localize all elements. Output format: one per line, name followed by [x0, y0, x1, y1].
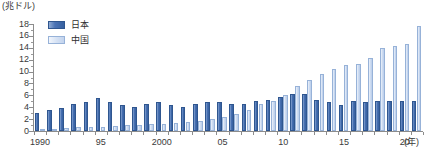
y-axis-minor-tick [31, 101, 33, 102]
bar-japan [205, 102, 210, 131]
y-axis-tick-label: 18 [3, 20, 29, 29]
bar-japan [84, 102, 89, 131]
y-axis-tick-labels: 024681012141618 [0, 0, 29, 152]
x-axis-tick [34, 132, 35, 135]
y-axis-tick-label: 0 [3, 127, 29, 136]
bar-japan [375, 101, 380, 131]
y-axis-minor-tick [31, 113, 33, 114]
bar-japan [193, 104, 198, 131]
y-axis-minor-tick [31, 66, 33, 67]
x-axis-tick [289, 132, 290, 135]
bar-japan [242, 104, 247, 131]
bar-japan [254, 101, 259, 131]
bar-group [144, 24, 156, 131]
x-axis-tick [277, 132, 278, 135]
bar-china [368, 58, 373, 131]
bar-china [174, 123, 179, 131]
x-axis-tick [70, 132, 71, 135]
y-axis-minor-tick [31, 30, 33, 31]
bar-group [400, 24, 412, 131]
bar-china [393, 46, 398, 131]
bar-group [96, 24, 108, 131]
bar-japan [412, 101, 417, 131]
bar-china [405, 44, 410, 131]
bar-group [339, 24, 351, 131]
bar-japan [339, 105, 344, 131]
bar-japan [169, 105, 174, 131]
bar-japan [144, 104, 149, 131]
bar-group [314, 24, 326, 131]
legend-item-china: 中国 [48, 34, 89, 46]
bar-japan [96, 98, 101, 131]
bar-china [271, 101, 276, 131]
y-axis-tick-label: 2 [3, 115, 29, 124]
x-axis-tick [326, 132, 327, 135]
bar-japan [35, 113, 40, 131]
bar-china [295, 86, 300, 131]
y-axis-tick [29, 107, 33, 108]
bar-japan [351, 101, 356, 131]
y-axis-tick-label: 14 [3, 43, 29, 52]
bar-china [380, 48, 385, 131]
bar-japan [217, 102, 222, 131]
bar-japan [71, 104, 76, 131]
x-axis-tick [374, 132, 375, 135]
bar-group [351, 24, 363, 131]
bar-china [162, 124, 167, 131]
bar-group [205, 24, 217, 131]
bar-japan [387, 101, 392, 131]
bar-china [186, 122, 191, 131]
y-axis-minor-tick [31, 42, 33, 43]
x-axis-tick-label: 2000 [152, 137, 172, 147]
y-axis-minor-tick [31, 78, 33, 79]
x-axis-tick [229, 132, 230, 135]
x-axis-tick-label: 95 [96, 137, 106, 147]
x-axis-tick [265, 132, 266, 135]
bar-group [266, 24, 278, 131]
chart-legend: 日本 中国 [48, 19, 89, 49]
bar-japan [156, 102, 161, 131]
x-axis-tick [143, 132, 144, 135]
gdp-bar-chart: (兆ドル) 024681012141618 199095200005101520… [0, 0, 431, 152]
x-axis-tick [387, 132, 388, 135]
legend-swatch-china-icon [48, 36, 65, 44]
bar-group [327, 24, 339, 131]
bar-group [156, 24, 168, 131]
legend-item-japan: 日本 [48, 19, 89, 31]
x-axis-tick [58, 132, 59, 135]
bar-group [278, 24, 290, 131]
bar-group [169, 24, 181, 131]
bar-japan [363, 102, 368, 131]
x-axis-tick-label: 1990 [30, 137, 50, 147]
x-axis-tick [314, 132, 315, 135]
bar-japan [400, 101, 405, 131]
x-axis-tick [107, 132, 108, 135]
bar-china [320, 74, 325, 131]
bar-group [229, 24, 241, 131]
bar-china [417, 26, 422, 131]
bar-china [259, 104, 264, 131]
y-axis-tick [29, 36, 33, 37]
y-axis-tick-label: 6 [3, 91, 29, 100]
bar-group [181, 24, 193, 131]
x-axis-tick [180, 132, 181, 135]
x-axis-tick-label: 15 [339, 137, 349, 147]
bar-japan [302, 94, 307, 131]
y-axis-tick [29, 83, 33, 84]
x-axis-tick [216, 132, 217, 135]
y-axis-tick [29, 72, 33, 73]
x-axis-tick [241, 132, 242, 135]
bar-japan [59, 108, 64, 131]
bar-group [254, 24, 266, 131]
x-axis-tick-label: 05 [217, 137, 227, 147]
x-axis-tick [156, 132, 157, 135]
bar-group [242, 24, 254, 131]
bar-japan [314, 100, 319, 131]
bar-japan [290, 94, 295, 131]
bar-group [132, 24, 144, 131]
bar-china [356, 64, 361, 131]
bar-japan [181, 107, 186, 131]
bar-china [222, 117, 227, 131]
bar-china [247, 110, 252, 131]
bar-group [290, 24, 302, 131]
